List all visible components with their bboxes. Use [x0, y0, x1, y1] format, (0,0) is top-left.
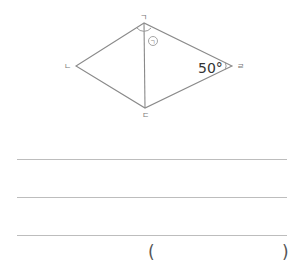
vertex-label-left: ㄴ: [64, 62, 71, 71]
answer-line-1: [17, 159, 287, 160]
vertex-label-right: ㄹ: [237, 62, 244, 71]
answer-line-3: [17, 235, 287, 236]
vertex-label-top: ㄱ: [140, 13, 147, 22]
vertex-label-bottom: ㄷ: [142, 111, 149, 120]
rhombus-figure: ㄱ ㄱ ㄴ ㄷ ㄹ 50°: [0, 0, 304, 140]
close-paren: ): [282, 242, 289, 262]
angle-arc-right: [225, 62, 226, 70]
open-paren: (: [148, 242, 155, 262]
answer-line-2: [17, 197, 287, 198]
diagonal-line: [144, 23, 145, 108]
angle-marker-label: ㄱ: [150, 38, 156, 45]
angle-value-label: 50°: [198, 60, 223, 76]
answer-input[interactable]: [162, 244, 280, 266]
